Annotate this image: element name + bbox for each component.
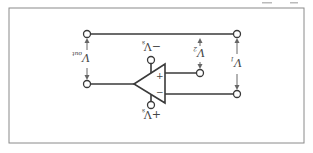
svg-text:s: s bbox=[142, 108, 145, 115]
label-pos-supply: +V s bbox=[142, 108, 161, 121]
svg-text:2: 2 bbox=[193, 46, 198, 53]
label-v1: V 1 bbox=[230, 56, 242, 69]
terminal-common-right bbox=[234, 31, 241, 38]
plus-input-sign: + bbox=[156, 71, 164, 81]
terminal-v1 bbox=[234, 91, 241, 98]
op-amp-symbol bbox=[134, 64, 165, 103]
svg-text:s: s bbox=[142, 40, 145, 47]
minus-input-sign: − bbox=[156, 87, 164, 97]
terminal-common-left bbox=[84, 31, 91, 38]
label-v2: V 2 bbox=[193, 46, 205, 59]
label-v-out: V out bbox=[72, 51, 90, 64]
terminal-pos-supply bbox=[148, 102, 155, 109]
label-neg-supply: −V s bbox=[142, 40, 161, 53]
svg-text:out: out bbox=[72, 51, 82, 58]
cropped-text-fragment bbox=[262, 2, 272, 4]
cropped-text-fragment bbox=[290, 2, 298, 4]
terminal-neg-supply bbox=[148, 57, 155, 64]
terminal-v2 bbox=[197, 70, 204, 77]
op-amp-diagram: V out V 2 V 1 −V s +V s + − bbox=[0, 0, 313, 153]
svg-text:1: 1 bbox=[230, 56, 234, 63]
terminal-output bbox=[84, 81, 91, 88]
